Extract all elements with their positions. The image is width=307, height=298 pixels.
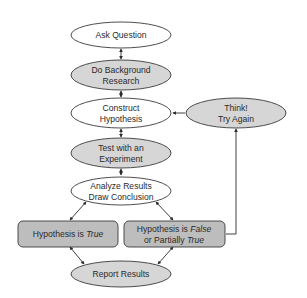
arrow-true-report	[70, 247, 84, 264]
node-label: Construct	[103, 103, 140, 113]
node-label: Do Background	[91, 65, 150, 75]
node-label: Ask Question	[95, 30, 146, 40]
node-label: Research	[103, 76, 140, 86]
node-label-italic: True	[187, 235, 204, 245]
node-label: Draw Conclusion	[89, 192, 154, 202]
node-label: Think!	[224, 103, 247, 113]
svg-text:or Partially True: or Partially True	[144, 235, 204, 245]
node-report-results: Report Results	[71, 261, 171, 287]
node-label: Experiment	[99, 154, 143, 164]
node-label: or Partially	[144, 235, 187, 245]
node-ask-question: Ask Question	[71, 22, 171, 48]
arrow-analyze-false	[156, 202, 173, 220]
node-hypothesis-true: Hypothesis is True	[18, 221, 118, 247]
arrow-analyze-true	[70, 202, 86, 220]
node-label: Test with an	[98, 143, 144, 153]
scientific-method-diagram: Ask Question Do Background Research Cons…	[0, 0, 307, 298]
arrow-false-report	[158, 247, 173, 264]
node-background-research: Do Background Research	[71, 60, 171, 90]
node-label: Hypothesis is	[33, 229, 87, 239]
node-test-experiment: Test with an Experiment	[71, 138, 171, 168]
node-label: Analyze Results	[90, 181, 152, 191]
node-label: Try Again	[218, 114, 254, 124]
node-label: Hypothesis is	[137, 224, 191, 234]
node-think-try-again: Think! Try Again	[186, 98, 286, 128]
node-label-italic: False	[190, 224, 211, 234]
node-construct-hypothesis: Construct Hypothesis	[71, 98, 171, 128]
node-label-italic: True	[86, 229, 103, 239]
svg-text:Hypothesis is True: Hypothesis is True	[33, 229, 104, 239]
node-analyze-results: Analyze Results Draw Conclusion	[71, 177, 171, 205]
node-label: Hypothesis	[100, 114, 143, 124]
svg-text:Hypothesis is False: Hypothesis is False	[137, 224, 212, 234]
node-hypothesis-false: Hypothesis is False or Partially True	[124, 221, 225, 247]
arrow-false-think	[226, 129, 236, 234]
node-label: Report Results	[93, 269, 150, 279]
